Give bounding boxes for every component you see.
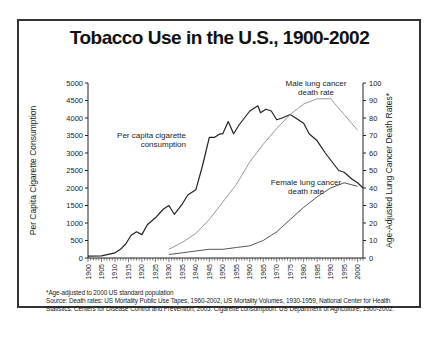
y2-tick-label: 70 [369, 131, 377, 140]
x-tick-label: 1970 [273, 264, 280, 280]
x-tick-label: 1940 [192, 264, 199, 280]
annotation-label: death rate [288, 187, 325, 196]
series-male-lung-cancer-death-rate [169, 99, 358, 250]
x-tick-label: 1960 [246, 264, 253, 280]
y2-tick-label: 60 [369, 149, 377, 158]
y2-tick-label: 80 [369, 114, 377, 123]
x-tick-label: 1945 [206, 264, 213, 280]
y2-tick-label: 40 [369, 184, 377, 193]
x-tick-label: 1985 [314, 264, 321, 280]
y2-tick-label: 20 [369, 219, 377, 228]
x-tick-label: 1910 [111, 264, 118, 280]
annotation-label: consumption [141, 140, 186, 149]
x-tick-label: 1915 [125, 264, 132, 280]
y-tick-label: 1000 [66, 219, 83, 228]
x-tick-label: 1950 [219, 264, 226, 280]
annotation-label: Per capita cigarette [117, 131, 186, 140]
x-tick-label: 1995 [341, 264, 348, 280]
y-tick-label: 4000 [66, 114, 83, 123]
x-tick-label: 2000 [354, 264, 361, 280]
annotation-label: Female lung cancer [271, 178, 342, 187]
x-tick-label: 1930 [165, 264, 172, 280]
x-tick-label: 1935 [179, 264, 186, 280]
x-tick-label: 1965 [260, 264, 267, 280]
y-tick-label: 0 [79, 254, 83, 263]
x-tick-label: 1900 [85, 264, 92, 280]
y-tick-label: 500 [70, 236, 83, 245]
x-tick-label: 1905 [98, 264, 105, 280]
y-tick-label: 2500 [66, 166, 83, 175]
y2-tick-label: 100 [369, 79, 382, 88]
x-tick-label: 1975 [287, 264, 294, 280]
y2-tick-label: 50 [369, 166, 377, 175]
footnote-source-2: Statistics. Centers for Disease Control … [46, 305, 394, 314]
y2-tick-label: 10 [369, 236, 377, 245]
x-tick-label: 1980 [300, 264, 307, 280]
y2-tick-label: 30 [369, 201, 377, 210]
y2-axis-label: Age-Adjusted Lung Cancer Death Rates* [384, 92, 394, 248]
annotation-label: death rate [298, 88, 335, 97]
y2-tick-label: 90 [369, 96, 377, 105]
y-tick-label: 3500 [66, 131, 83, 140]
y-tick-label: 4500 [66, 96, 83, 105]
x-tick-label: 1955 [233, 264, 240, 280]
series-female-lung-cancer-death-rate [169, 183, 358, 255]
x-tick-label: 1920 [138, 264, 145, 280]
y-axis-label: Per Capita Cigarette Consumption [28, 106, 38, 236]
y-tick-label: 1500 [66, 201, 83, 210]
y-tick-label: 5000 [66, 79, 83, 88]
y-tick-label: 3000 [66, 149, 83, 158]
annotation-label: Male lung cancer [286, 79, 347, 88]
x-tick-label: 1925 [152, 264, 159, 280]
x-tick-label: 1990 [327, 264, 334, 280]
y-tick-label: 2000 [66, 184, 83, 193]
y2-tick-label: 0 [369, 254, 373, 263]
